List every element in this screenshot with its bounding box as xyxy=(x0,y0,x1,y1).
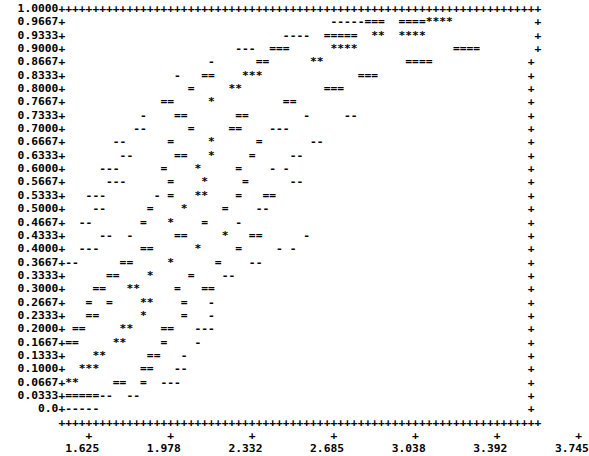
ascii-plot-canvas: 1.0000++++++++++++++++++++++++++++++++++… xyxy=(4,2,589,456)
